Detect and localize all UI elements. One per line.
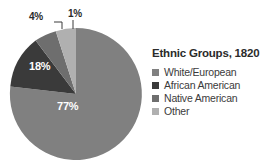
chart-title: Ethnic Groups, 1820 bbox=[152, 47, 262, 59]
slice-value-native-american: 4% bbox=[29, 11, 43, 22]
legend-item-white-european: White/European bbox=[152, 66, 262, 78]
legend-item-african-american: African American bbox=[152, 79, 262, 91]
legend-label: Other bbox=[164, 105, 189, 117]
legend-swatch-icon bbox=[152, 82, 159, 89]
legend-label: White/European bbox=[164, 66, 237, 78]
chart-legend: Ethnic Groups, 1820 White/European Afric… bbox=[152, 47, 262, 118]
slice-value-african-american: 18% bbox=[29, 60, 50, 72]
leader-line-native-american bbox=[54, 22, 62, 29]
pie-chart-figure: 77% 18% 4% 1% Ethnic Groups, 1820 White/… bbox=[0, 0, 262, 168]
slice-value-other: 1% bbox=[68, 8, 82, 19]
legend-label: Native American bbox=[164, 92, 237, 104]
legend-swatch-icon bbox=[152, 69, 159, 76]
slice-value-white-european: 77% bbox=[57, 100, 78, 112]
legend-item-other: Other bbox=[152, 105, 262, 117]
pie-chart-graphic: 77% 18% 4% 1% bbox=[0, 0, 152, 168]
legend-swatch-icon bbox=[152, 95, 159, 102]
legend-item-native-american: Native American bbox=[152, 92, 262, 104]
pie-svg bbox=[0, 0, 152, 168]
legend-swatch-icon bbox=[152, 108, 159, 115]
legend-label: African American bbox=[164, 79, 240, 91]
